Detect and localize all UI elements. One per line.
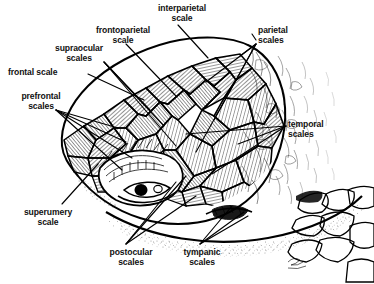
leader-frontal [88, 74, 144, 100]
label-temporal-line2: scales [288, 129, 314, 139]
label-temporal-line1: temporal [288, 119, 324, 129]
label-parietal: parietalscales [258, 26, 318, 45]
label-frontal-line1: frontal scale [8, 67, 57, 77]
label-superumery-line1: superumery [24, 207, 72, 217]
label-superumery-line2: scale [37, 217, 58, 227]
label-superumery: superumeryscale [12, 208, 84, 227]
label-interparietal: interparietalscale [146, 4, 218, 23]
label-postocular-line1: postocular [110, 247, 153, 257]
label-interparietal-line1: interparietal [158, 3, 206, 13]
label-prefrontal: prefrontalscales [10, 92, 72, 111]
label-temporal: temporalscales [288, 120, 348, 139]
label-supraocular: supraocularscales [44, 44, 114, 63]
label-parietal-line1: parietal [258, 25, 288, 35]
label-tympanic-line2: scales [189, 257, 215, 267]
label-tympanic: tympanicscales [172, 248, 232, 267]
label-prefrontal-line1: prefrontal [21, 91, 60, 101]
label-frontal: frontal scale [8, 68, 88, 78]
label-postocular: postocularscales [98, 248, 164, 267]
eye [99, 150, 183, 205]
label-interparietal-line2: scale [171, 13, 192, 23]
label-supraocular-line1: supraocular [55, 43, 103, 53]
label-prefrontal-line2: scales [28, 101, 54, 111]
label-parietal-line2: scales [258, 35, 284, 45]
label-supraocular-line2: scales [66, 53, 92, 63]
label-frontoparietal-line1: frontoparietal [96, 25, 150, 35]
label-frontoparietal-line2: scale [112, 35, 133, 45]
label-tympanic-line1: tympanic [184, 247, 221, 257]
label-postocular-line2: scales [118, 257, 144, 267]
leader-interparietal [178, 25, 208, 58]
